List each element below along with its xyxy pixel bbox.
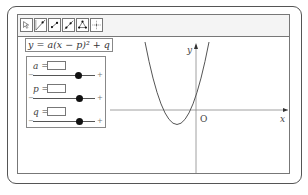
polygon-icon: [77, 19, 88, 31]
parameter-p: p = − +: [27, 84, 105, 106]
slider-a-track[interactable]: [33, 75, 95, 76]
move-view-tool-button[interactable]: [90, 18, 103, 32]
slider-q-track[interactable]: [33, 121, 95, 122]
line-tool-button[interactable]: [34, 18, 47, 32]
graph-view[interactable]: y O x: [110, 37, 290, 175]
slider-a-thumb[interactable]: [75, 72, 82, 79]
param-q-input[interactable]: [47, 107, 66, 116]
y-axis-label: y: [186, 45, 193, 55]
slider-a-max: +: [97, 71, 103, 79]
line-icon: [35, 19, 46, 31]
segment-tool-button[interactable]: [48, 18, 61, 32]
x-axis-arrow-icon: [283, 108, 288, 112]
parameter-a: a = − +: [27, 61, 105, 83]
move-view-icon: [91, 19, 102, 31]
pointer-icon: [21, 19, 32, 31]
segment-icon: [49, 19, 60, 31]
slider-p-thumb[interactable]: [76, 95, 83, 102]
ray-icon: [63, 19, 74, 31]
parabola-curve: [145, 42, 209, 125]
x-axis-label: x: [280, 114, 285, 124]
param-a-input[interactable]: [47, 61, 66, 70]
ray-tool-button[interactable]: [62, 18, 75, 32]
slider-p-max: +: [97, 94, 103, 102]
y-axis-arrow-icon: [194, 43, 198, 49]
parameter-q: q = − +: [27, 107, 105, 129]
param-p-input[interactable]: [47, 84, 66, 93]
slider-q-max: +: [97, 117, 103, 125]
slider-p-track[interactable]: [33, 98, 95, 99]
polygon-tool-button[interactable]: [76, 18, 89, 32]
move-tool-button[interactable]: [20, 18, 33, 32]
formula-display: y = a(x − p)² + q: [25, 38, 113, 52]
origin-label: O: [200, 114, 207, 124]
toolbar: [18, 15, 289, 37]
parameter-panel: a = − + p = − + q = − +: [26, 56, 106, 128]
slider-q-thumb[interactable]: [76, 118, 83, 125]
